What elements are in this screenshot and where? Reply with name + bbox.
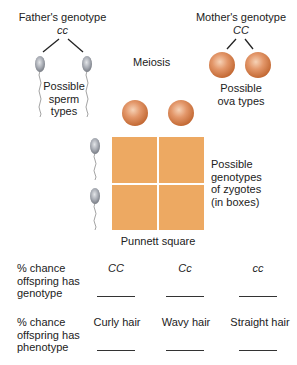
phenotype-answer-blank-wavy[interactable] [166,350,204,351]
punnett-cell[interactable] [159,185,204,231]
phenotype-row-label: % chance offspring has phenotype [17,316,80,354]
genotype-answer-blank-Cc[interactable] [166,296,204,297]
punnett-square [112,137,204,230]
punnett-cell[interactable] [159,137,204,183]
ovum-icon [168,100,194,126]
ovum-icon [209,52,235,78]
phenotype-column-wavy: Wavy hair [153,316,219,329]
father-genotype-value: cc [10,24,115,37]
punnett-square-caption: Punnett square [100,235,216,248]
sperm-types-label-line3: types [38,105,90,118]
ovum-icon [122,100,148,126]
sperm-types-label: Possible sperm types [38,80,90,118]
sperm-types-label-line2: sperm [38,93,90,106]
phenotype-column-curly: Curly hair [84,316,150,329]
genotype-answer-blank-cc[interactable] [239,296,277,297]
father-genotype-title: Father's genotype [10,11,115,24]
zygote-label-line: Possible [211,158,262,171]
sperm-icon [90,188,100,230]
ova-types-label-line1: Possible [207,82,275,95]
ovum-icon [245,52,271,78]
phenotype-row-label-line: offspring has [17,329,80,342]
genotype-column-Cc: Cc [155,262,215,275]
punnett-cell[interactable] [112,185,157,231]
mother-genotype-value: CC [187,24,295,37]
ova-types-label: Possible ova types [207,82,275,107]
sperm-icon [90,138,100,180]
phenotype-row-label-line: phenotype [17,341,80,354]
genotype-column-CC: CC [86,262,146,275]
genotype-row-label-line: % chance [17,262,80,275]
phenotype-answer-blank-straight[interactable] [239,350,277,351]
mother-genotype-title: Mother's genotype [187,11,295,24]
mother-connector-lines [227,39,253,49]
ova-types-label-line2: ova types [207,95,275,108]
meiosis-label: Meiosis [133,56,170,69]
punnett-cell[interactable] [112,137,157,183]
zygote-label-line: of zygotes [211,183,262,196]
phenotype-column-straight: Straight hair [223,316,297,329]
zygote-label-line: genotypes [211,171,262,184]
phenotype-answer-blank-curly[interactable] [97,350,135,351]
zygote-label-line: (in boxes) [211,196,262,209]
genotype-answer-blank-CC[interactable] [97,296,135,297]
phenotype-row-label-line: % chance [17,316,80,329]
genotype-column-cc: cc [228,262,288,275]
genotype-row-label-line: genotype [17,287,80,300]
father-connector-lines [43,39,83,52]
sperm-types-label-line1: Possible [38,80,90,93]
genotype-row-label: % chance offspring has genotype [17,262,80,300]
genotype-row-label-line: offspring has [17,275,80,288]
zygote-genotypes-label: Possible genotypes of zygotes (in boxes) [211,158,262,208]
